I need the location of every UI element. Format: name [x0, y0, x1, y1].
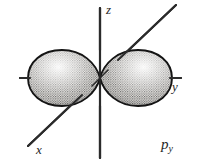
x-axis-label: x	[36, 143, 42, 156]
lobe-positive-y	[96, 46, 178, 110]
y-axis-label: y	[172, 80, 178, 93]
orbital-figure: z y x py	[0, 0, 198, 165]
orbital-name-base: p	[161, 136, 169, 152]
z-axis-label: z	[106, 3, 111, 16]
lobe-negative-y	[24, 46, 106, 110]
orbital-name-subscript: y	[169, 143, 173, 154]
orbital-name-label: py	[161, 137, 173, 154]
